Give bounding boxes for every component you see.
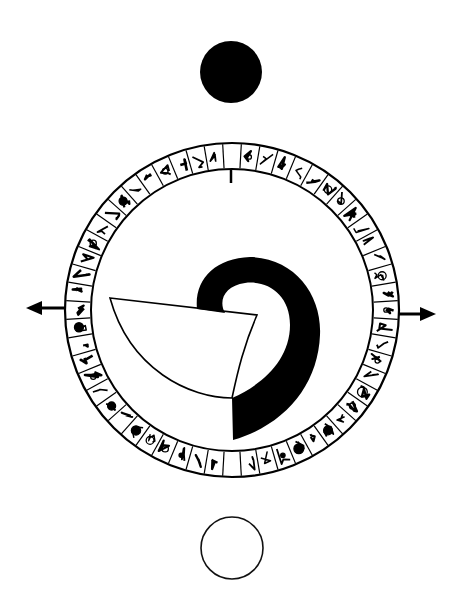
dark-moon-disc <box>200 41 262 103</box>
full-moon-disc <box>201 517 263 579</box>
arrow-left-icon <box>26 301 64 315</box>
calendar-diagram <box>0 0 459 613</box>
spiral-hook <box>110 257 320 440</box>
arrow-right-icon <box>398 307 436 321</box>
